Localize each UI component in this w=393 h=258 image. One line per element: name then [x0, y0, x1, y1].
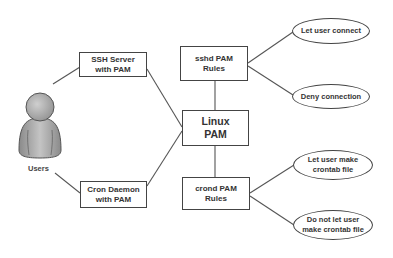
deny-connection-label: Deny connection: [301, 92, 361, 102]
ssh-server-label-line2: with PAM: [91, 65, 135, 75]
crond-pam-rules-node: crond PAM Rules: [182, 177, 250, 210]
crond-rules-label-line1: crond PAM: [195, 184, 237, 194]
deny-crontab-outcome: Do not let user make crontab file: [293, 210, 373, 240]
cron-daemon-label-line1: Cron Daemon: [87, 185, 139, 195]
let-crontab-label-line1: Let user make: [308, 155, 358, 165]
cron-daemon-node: Cron Daemon with PAM: [80, 181, 147, 208]
ssh-server-label-line1: SSH Server: [91, 55, 135, 65]
user-icon: [19, 93, 61, 158]
sshd-pam-rules-node: sshd PAM Rules: [180, 46, 248, 81]
cron-daemon-label-line2: with PAM: [87, 195, 139, 205]
ssh-server-node: SSH Server with PAM: [79, 52, 147, 77]
let-user-connect-outcome: Let user connect: [292, 18, 370, 44]
deny-crontab-label-line1: Do not let user: [302, 215, 364, 225]
deny-connection-outcome: Deny connection: [292, 84, 370, 109]
crond-rules-label-line2: Rules: [195, 194, 237, 204]
let-user-make-crontab-outcome: Let user make crontab file: [293, 150, 373, 180]
users-label: Users: [28, 164, 49, 173]
let-connect-label: Let user connect: [301, 26, 361, 36]
linux-pam-node: Linux PAM: [182, 110, 249, 146]
linux-pam-label-line1: Linux: [202, 115, 230, 128]
deny-crontab-label-line2: make crontab file: [302, 225, 364, 235]
let-crontab-label-line2: crontab file: [308, 165, 358, 175]
sshd-rules-label-line1: sshd PAM: [195, 54, 233, 64]
linux-pam-label-line2: PAM: [202, 128, 230, 141]
sshd-rules-label-line2: Rules: [195, 64, 233, 74]
